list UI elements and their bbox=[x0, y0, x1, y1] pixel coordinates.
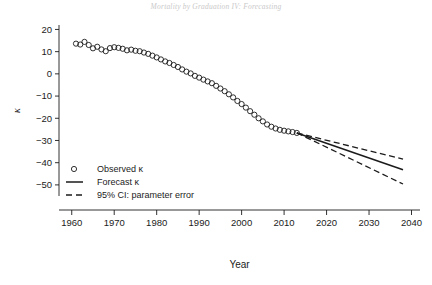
kappa-forecast-chart: 20100−10−20−30−40−5019601970198019902000… bbox=[0, 0, 432, 285]
y-tick-label: −10 bbox=[36, 90, 52, 101]
x-axis-title: Year bbox=[229, 259, 250, 270]
x-tick-label: 1960 bbox=[61, 217, 82, 228]
x-tick-label: 1990 bbox=[189, 217, 210, 228]
x-tick-label: 2030 bbox=[358, 217, 379, 228]
legend-label: 95% CI: parameter error bbox=[97, 190, 194, 200]
legend-marker-observed bbox=[71, 166, 76, 171]
legend-label: Observed κ bbox=[97, 164, 144, 174]
x-tick-label: 2010 bbox=[274, 217, 295, 228]
y-tick-label: −30 bbox=[36, 135, 52, 146]
x-tick-label: 2000 bbox=[231, 217, 252, 228]
x-tick-label: 2020 bbox=[316, 217, 337, 228]
ci-lower-line bbox=[297, 133, 403, 184]
y-tick-label: −20 bbox=[36, 113, 52, 124]
x-tick-label: 1980 bbox=[146, 217, 167, 228]
x-tick-label: 1970 bbox=[104, 217, 125, 228]
y-tick-label: 20 bbox=[41, 24, 52, 35]
legend-label: Forecast κ bbox=[97, 177, 140, 187]
y-axis-title: κ bbox=[11, 108, 22, 113]
x-tick-label: 2040 bbox=[401, 217, 422, 228]
y-tick-label: −50 bbox=[36, 179, 52, 190]
forecast-line bbox=[297, 133, 403, 170]
ci-upper-line bbox=[297, 133, 403, 159]
y-tick-label: −40 bbox=[36, 157, 52, 168]
y-tick-label: 10 bbox=[41, 46, 52, 57]
y-tick-label: 0 bbox=[47, 68, 52, 79]
chart-svg: 20100−10−20−30−40−5019601970198019902000… bbox=[0, 0, 432, 285]
